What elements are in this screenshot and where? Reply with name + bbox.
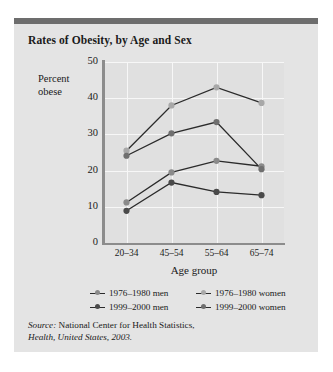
x-tick-label-2: 55–64 (194, 248, 240, 258)
data-point-1-1[interactable] (168, 102, 174, 108)
legend-marker-icon-1 (196, 289, 211, 298)
y-tick-label-10: 10 (72, 200, 98, 211)
data-point-2-0[interactable] (123, 208, 129, 214)
legend-item-2[interactable]: 1999–2000 men (90, 302, 196, 312)
legend-dot-icon-0 (95, 290, 100, 295)
data-point-0-2[interactable] (213, 158, 219, 164)
legend-dot-icon-2 (95, 304, 100, 309)
series-line-3 (127, 122, 262, 169)
legend-item-1[interactable]: 1976–1980 women (196, 288, 305, 298)
data-point-0-0[interactable] (123, 199, 129, 205)
legend-marker-icon-2 (90, 303, 105, 312)
legend-label-2: 1999–2000 men (109, 302, 168, 312)
y-tick-label-0: 0 (72, 236, 98, 247)
legend-row-2: 1999–2000 men 1999–2000 women (90, 300, 305, 314)
legend-dot-icon-3 (201, 304, 206, 309)
x-tick-label-3: 65–74 (239, 248, 285, 258)
figure-panel: Rates of Obesity, by Age and Sex 0102030… (14, 18, 318, 352)
legend-row-1: 1976–1980 men 1976–1980 women (90, 286, 305, 300)
y-axis-label: Percent obese (38, 72, 100, 98)
data-point-1-3[interactable] (258, 100, 264, 106)
legend-item-0[interactable]: 1976–1980 men (90, 288, 196, 298)
legend-marker-icon-0 (90, 289, 105, 298)
data-point-2-2[interactable] (213, 189, 219, 195)
chart-legend: 1976–1980 men 1976–1980 women 1999–2000 … (90, 286, 305, 314)
data-point-3-1[interactable] (168, 130, 174, 136)
data-point-3-3[interactable] (258, 166, 264, 172)
legend-marker-icon-3 (196, 303, 211, 312)
source-text: National Center for Health Statistics, (56, 320, 194, 330)
x-axis-label: Age group (104, 264, 284, 276)
y-tick-label-50: 50 (72, 55, 98, 66)
data-point-2-1[interactable] (168, 179, 174, 185)
legend-dot-icon-1 (201, 290, 206, 295)
data-point-1-2[interactable] (213, 84, 219, 90)
series-line-1 (127, 87, 262, 150)
x-tick-label-1: 45–54 (149, 248, 195, 258)
x-axis-line (102, 243, 285, 245)
source-citation: Health, United States, 2003. (28, 332, 132, 342)
data-point-0-1[interactable] (168, 169, 174, 175)
data-point-2-3[interactable] (258, 192, 264, 198)
series-line-2 (127, 183, 262, 211)
y-tick-label-20: 20 (72, 164, 98, 175)
legend-label-1: 1976–1980 women (215, 288, 286, 298)
y-axis-label-line1: Percent (38, 73, 70, 84)
data-point-3-2[interactable] (213, 119, 219, 125)
legend-item-3[interactable]: 1999–2000 women (196, 302, 305, 312)
figure-source-note: Source: National Center for Health Stati… (28, 320, 300, 343)
series-layer (104, 62, 284, 243)
y-tick-label-30: 30 (72, 127, 98, 138)
legend-label-3: 1999–2000 women (215, 302, 286, 312)
y-axis-label-line2: obese (38, 86, 62, 97)
source-prefix: Source: (28, 320, 56, 330)
x-tick-label-0: 20–34 (104, 248, 150, 258)
legend-label-0: 1976–1980 men (109, 288, 168, 298)
data-point-3-0[interactable] (123, 153, 129, 159)
series-line-0 (127, 161, 262, 203)
